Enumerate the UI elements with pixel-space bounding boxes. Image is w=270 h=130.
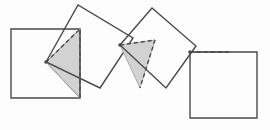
figure-canvas <box>0 0 270 130</box>
pivot-point-3 <box>188 50 192 54</box>
pivot-point-1 <box>44 60 48 64</box>
pivot-point-2 <box>118 43 122 47</box>
geometry-figure <box>0 0 270 130</box>
